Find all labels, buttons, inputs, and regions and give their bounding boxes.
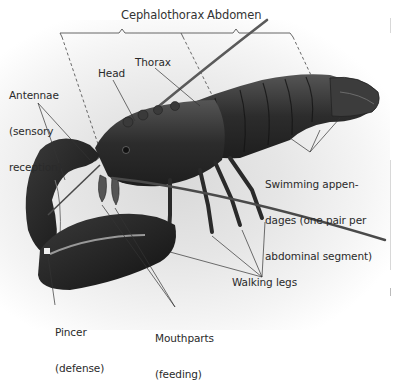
claw-lower [38,214,176,290]
swimming-appendages-label: Swimming appen- dages (one pair per abdo… [265,154,372,286]
cephalothorax-label: Cephalothorax [121,9,204,21]
antennae-label-line2: (sensory [9,125,62,137]
page-edge-line [390,18,391,33]
claw-tooth [44,248,50,254]
swimming-label-line3: abdominal segment) [265,250,372,262]
antennae-label-line3: reception) [9,161,62,173]
cephalothorax-body [95,100,225,186]
swimming-label-line1: Swimming appen- [265,178,372,190]
antennae-label-line1: Antennae [9,89,62,101]
page-edge-line [390,288,391,296]
mouthparts-label: Mouthparts (feeding) [155,308,214,384]
abdomen-label: Abdomen [207,9,261,21]
page-edge-line [390,160,391,270]
mouthparts-label-line1: Mouthparts [155,332,214,344]
pincer-label: Pincer (defense) [55,302,104,384]
mouthparts-label-line2: (feeding) [155,368,214,380]
antennae-label: Antennae (sensory reception) [9,65,62,197]
swimming-label-line2: dages (one pair per [265,214,372,226]
eye [123,147,130,154]
pincer-label-line2: (defense) [55,362,104,374]
cephalothorax-bracket [60,29,183,37]
head-label: Head [98,67,125,79]
walking-legs-label: Walking legs [232,276,297,288]
abdomen-bracket [181,29,293,37]
pincer-label-line1: Pincer [55,326,104,338]
thorax-label: Thorax [135,56,171,68]
